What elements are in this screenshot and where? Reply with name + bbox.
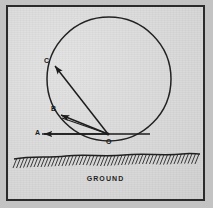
label-point-c: C	[44, 57, 49, 64]
label-point-a: A	[35, 129, 40, 136]
label-point-b: B	[51, 105, 56, 112]
circle-tangent-diagram	[8, 7, 203, 199]
point-o-marker	[107, 133, 110, 136]
ground-caption: GROUND	[8, 175, 203, 182]
label-point-o: O	[106, 138, 111, 145]
figure-root: A B C O GROUND	[0, 0, 213, 208]
figure-frame: A B C O GROUND	[6, 5, 205, 201]
